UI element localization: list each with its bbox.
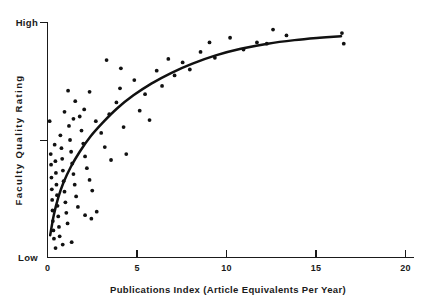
data-point [88, 178, 92, 182]
x-tick-label-15: 15 [311, 263, 321, 273]
data-point [340, 31, 344, 35]
scatter-plot: High Low 0 5 10 15 20 Publications Index… [0, 0, 430, 304]
data-point [67, 124, 71, 128]
data-point [155, 69, 159, 73]
data-point [103, 145, 107, 149]
data-point [58, 234, 62, 238]
data-point [54, 246, 58, 250]
x-tick-label-5: 5 [134, 263, 139, 273]
data-point [66, 89, 70, 93]
data-point [80, 129, 84, 133]
data-point [76, 205, 80, 209]
y-axis-title: Faculty Quality Rating [13, 74, 24, 205]
data-point [124, 152, 128, 156]
data-point [78, 115, 82, 119]
data-point [58, 133, 62, 137]
data-point [188, 68, 192, 72]
data-point [50, 176, 54, 180]
data-point [132, 78, 136, 82]
data-point [68, 138, 72, 142]
data-point [83, 213, 87, 217]
data-point [166, 57, 170, 61]
data-point [52, 237, 56, 241]
data-point [83, 155, 87, 159]
data-point [48, 119, 52, 123]
data-point [63, 110, 67, 114]
data-point [138, 109, 142, 113]
data-point [255, 41, 259, 45]
data-point [60, 146, 64, 150]
data-point [53, 159, 57, 163]
data-point [143, 92, 147, 96]
data-point [61, 243, 65, 247]
data-point [99, 131, 103, 135]
data-point [85, 166, 89, 170]
data-point [122, 125, 126, 129]
data-point [72, 117, 76, 121]
data-point [54, 171, 58, 175]
data-point [148, 118, 152, 122]
data-point [63, 190, 67, 194]
data-point [115, 101, 119, 105]
data-point [64, 211, 68, 215]
data-point [94, 119, 98, 123]
data-point [69, 150, 73, 154]
data-point [64, 200, 68, 204]
data-point [57, 225, 61, 229]
data-point [90, 189, 94, 193]
data-point [73, 99, 77, 103]
data-point [119, 66, 123, 70]
data-point [50, 187, 54, 191]
x-tick-label-10: 10 [221, 263, 231, 273]
data-point [181, 61, 185, 65]
data-point [173, 73, 177, 77]
y-axis-high-label: High [16, 17, 38, 28]
data-point [118, 86, 122, 90]
data-point [49, 152, 53, 156]
data-point [95, 210, 99, 214]
data-point [105, 58, 109, 62]
data-point [61, 169, 65, 173]
data-point [109, 158, 113, 162]
data-point [74, 195, 78, 199]
data-point [49, 163, 53, 167]
data-point [60, 157, 64, 161]
data-point [56, 214, 60, 218]
fit-curve [50, 36, 341, 235]
y-axis-low-label: Low [18, 252, 38, 263]
data-point [228, 36, 232, 40]
data-point [89, 217, 93, 221]
data-point [199, 50, 203, 54]
data-point [55, 183, 59, 187]
data-point [70, 240, 74, 244]
data-point [88, 90, 92, 94]
data-point [66, 222, 70, 226]
data-point [72, 172, 76, 176]
x-tick-label-0: 0 [45, 263, 50, 273]
data-point [73, 183, 77, 187]
x-axis-title: Publications Index (Article Equivalents … [110, 284, 346, 295]
data-point [271, 28, 275, 32]
data-point [50, 198, 54, 202]
data-point [285, 34, 289, 38]
data-point [53, 143, 57, 147]
data-point [82, 108, 86, 112]
x-tick-label-20: 20 [400, 263, 410, 273]
chart-figure: High Low 0 5 10 15 20 Publications Index… [0, 0, 430, 304]
data-point [160, 84, 164, 88]
data-point [342, 42, 346, 46]
data-point [208, 41, 212, 45]
